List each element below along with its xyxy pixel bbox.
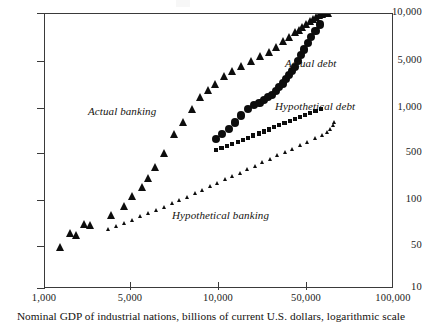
- y-tick-mark: [37, 288, 45, 289]
- x-tick-label-1000: 1,000: [14, 292, 74, 303]
- plot-frame: [44, 13, 393, 288]
- x-tick-label-100000: 100,000: [363, 292, 422, 303]
- annotation-hypothetical-debt: Hypothetical debt: [275, 100, 355, 112]
- annotation-hypothetical-banking: Hypothetical banking: [172, 209, 269, 221]
- annotation-actual-debt: Actual debt: [285, 57, 337, 69]
- chart-figure: 10,000 5,000 1,000 500 100 50 10 1,000 5…: [0, 0, 422, 330]
- annotation-actual-banking: Actual banking: [88, 105, 156, 117]
- figure-caption: Nominal GDP of industrial nations, billi…: [0, 310, 422, 322]
- x-tick-label-10000: 10,000: [188, 292, 248, 303]
- x-tick-label-5000: 5,000: [100, 292, 160, 303]
- scan-artifact: [176, 0, 190, 7]
- x-tick-label-50000: 50,000: [276, 292, 336, 303]
